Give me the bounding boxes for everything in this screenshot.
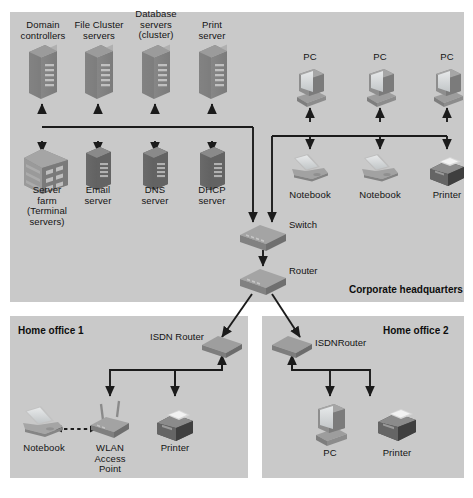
label-pc-1: PC [288, 52, 332, 63]
label-printer-ho1: Printer [149, 443, 201, 454]
icon-router [240, 269, 286, 295]
icon-isdn-router-1 [202, 336, 242, 358]
label-print-server: Print server [175, 20, 249, 41]
label-notebook-hq-1: Notebook [281, 190, 339, 201]
icon-wlan-access-point [91, 401, 129, 438]
label-dhcp-server: DHCP server [176, 185, 248, 206]
label-pc-ho2: PC [308, 448, 352, 459]
network-diagram: Domain controllers File Cluster servers … [0, 0, 473, 498]
label-pc-2: PC [358, 52, 402, 63]
label-router: Router [289, 265, 318, 276]
zone-label-home-office-2: Home office 2 [383, 325, 449, 336]
label-isdn-router-2: ISDNRouter [315, 337, 366, 348]
label-printer-ho2: Printer [371, 448, 423, 459]
label-switch: Switch [289, 219, 317, 230]
label-pc-3: PC [425, 52, 469, 63]
label-wlan-access-point: WLAN Access Point [80, 443, 140, 475]
zone-label-home-office-1: Home office 1 [18, 325, 84, 336]
label-printer-hq: Printer [421, 190, 473, 201]
diagram-connections [0, 0, 473, 498]
label-notebook-ho1: Notebook [13, 443, 75, 454]
label-isdn-router-1: ISDN Router [150, 331, 204, 342]
icon-switch [240, 225, 286, 251]
zone-label-corporate-headquarters: Corporate headquarters [349, 284, 463, 295]
icon-server-tower-group [29, 45, 227, 100]
label-notebook-hq-2: Notebook [351, 190, 409, 201]
icon-isdn-router-2 [272, 336, 312, 358]
